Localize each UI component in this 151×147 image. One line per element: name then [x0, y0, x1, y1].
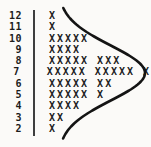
category-label: 3 — [0, 112, 22, 123]
x-marks: XX — [49, 112, 65, 123]
plot-rows: 12X11X10XXXXX9XXXX8XXXXX XXX7XXXXX XXXXX… — [0, 10, 151, 134]
category-label: 2 — [0, 123, 22, 134]
category-label: 6 — [0, 78, 22, 89]
category-label: 8 — [0, 55, 22, 66]
category-label: 7 — [0, 66, 20, 77]
plot-row: 2X — [0, 123, 151, 134]
category-label: 4 — [0, 100, 22, 111]
plot-row: 12X — [0, 10, 151, 21]
category-label: 12 — [0, 10, 22, 21]
plot-row: 8XXXXX XXX — [0, 55, 151, 66]
x-marks: X — [49, 123, 57, 134]
category-label: 9 — [0, 44, 22, 55]
plot-row: 3XX — [0, 112, 151, 123]
category-label: 10 — [0, 33, 22, 44]
x-marks: XXXXX X — [49, 89, 105, 100]
category-label: 11 — [0, 21, 22, 32]
x-marks: XXXXX — [49, 33, 89, 44]
plot-row: 5XXXXX X — [0, 89, 151, 100]
x-marks: XXXX — [49, 100, 81, 111]
dot-plot-chart: 12X11X10XXXXX9XXXX8XXXXX XXX7XXXXX XXXXX… — [0, 0, 151, 147]
plot-row: 4XXXX — [0, 100, 151, 111]
plot-row: 9XXXX — [0, 44, 151, 55]
plot-row: 11X — [0, 21, 151, 32]
x-marks: X — [49, 21, 57, 32]
x-marks: X — [49, 10, 57, 21]
plot-row: 10XXXXX — [0, 33, 151, 44]
category-label: 5 — [0, 89, 22, 100]
plot-row: 6XXXXX XX — [0, 78, 151, 89]
y-axis-line — [33, 10, 35, 136]
x-marks: XXXXX XX — [49, 78, 113, 89]
plot-row: 7XXXXX XXXXX X — [0, 66, 151, 77]
x-marks: XXXXX XXX — [49, 55, 121, 66]
x-marks: XXXX — [49, 44, 81, 55]
x-marks: XXXXX XXXXX X — [47, 66, 151, 77]
